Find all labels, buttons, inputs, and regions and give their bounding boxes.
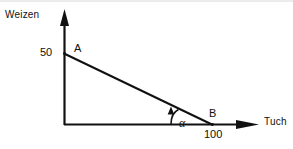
y-axis-arrow-icon xyxy=(60,9,69,26)
point-b-marker xyxy=(211,123,214,126)
angle-label: α xyxy=(179,117,185,129)
y-axis-label: Weizen xyxy=(5,10,39,20)
point-a-label: A xyxy=(74,43,81,54)
point-a-marker xyxy=(63,52,66,55)
economics-diagram: Weizen Tuch 50 100 A B α xyxy=(0,0,293,149)
x-axis-label: Tuch xyxy=(264,117,287,127)
angle-arc-arrow-icon xyxy=(168,107,175,115)
point-b-label: B xyxy=(209,108,216,119)
x-axis-tick-label: 100 xyxy=(204,129,222,140)
x-axis-arrow-icon xyxy=(236,120,259,129)
y-axis-tick-label: 50 xyxy=(40,47,52,58)
transformation-line xyxy=(64,54,213,126)
diagram-canvas xyxy=(0,0,293,149)
